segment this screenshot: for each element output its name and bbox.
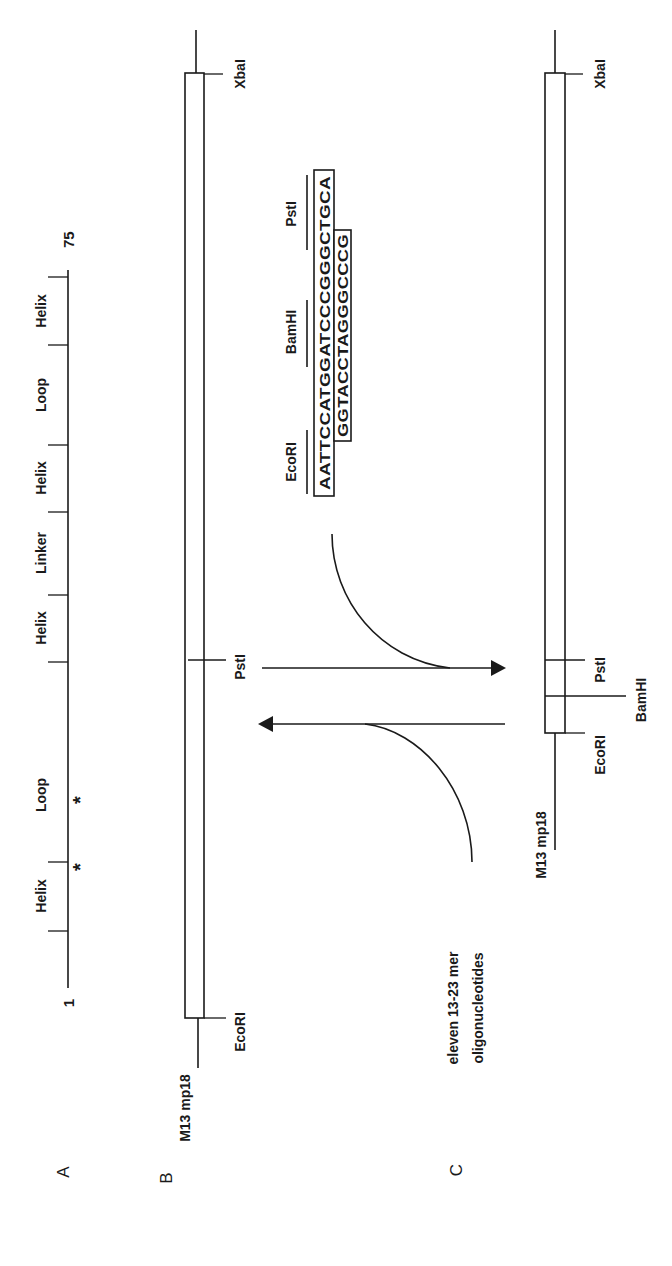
merge-curve-bottom	[365, 724, 472, 862]
oligo-annotation-line2: oligonucleotides	[470, 952, 486, 1063]
segment-label: Helix	[33, 294, 49, 328]
site-label-psti: PstI	[592, 657, 608, 683]
arrowhead-left-icon	[258, 716, 273, 732]
vector-label: M13 mp18	[177, 1074, 193, 1142]
insert-site-label-psti: PstI	[283, 201, 299, 227]
insert-site-label-bamhi: BamHI	[283, 310, 299, 354]
segment-label: Linker	[33, 531, 49, 574]
arrowhead-right-icon	[491, 660, 506, 676]
insert-sequence: PstI BamHI EcoRI AATTCCATGGATCCCGGGCTGCA…	[283, 170, 351, 496]
segment-label: Loop	[33, 778, 49, 812]
site-label-psti: PstI	[232, 654, 248, 680]
arrows: eleven 13-23 mer oligonucleotides	[258, 534, 506, 1064]
site-label-ecori: EcoRI	[232, 1012, 248, 1052]
oligo-annotation-line1: eleven 13-23 mer	[445, 951, 461, 1064]
segment-label: Loop	[33, 378, 49, 412]
panel-b: XbaI PstI EcoRI M13 mp18 B	[157, 30, 248, 1184]
panel-label-b: B	[157, 1172, 176, 1183]
bottom-strand-sequence: GGTACCTAGGGCCCG	[334, 234, 351, 437]
segment-label: Helix	[33, 879, 49, 913]
segment-label: Helix	[33, 611, 49, 645]
vector-insert-region	[545, 73, 565, 733]
site-label-xbai: XbaI	[232, 59, 248, 89]
mutation-marker: *	[69, 863, 91, 871]
segment-label: Helix	[33, 461, 49, 495]
site-label-ecori: EcoRI	[592, 735, 608, 775]
site-label-bamhi: BamHI	[633, 678, 649, 722]
vector-label: M13 mp18	[533, 811, 549, 879]
end-label: 75	[60, 231, 77, 248]
panel-label-c: C	[447, 1164, 466, 1176]
merge-curve-top	[332, 534, 450, 668]
start-label: 1	[60, 999, 77, 1007]
panel-a: 75 1 Helix Loop Helix Linker Helix Loop …	[33, 231, 91, 1177]
vector-insert-region	[185, 73, 204, 1018]
figure-canvas: 75 1 Helix Loop Helix Linker Helix Loop …	[0, 0, 672, 1266]
site-label-xbai: XbaI	[592, 59, 608, 89]
top-strand-sequence: AATTCCATGGATCCCGGGCTGCA	[316, 176, 333, 490]
panel-label-a: A	[54, 1166, 73, 1178]
mutation-marker: *	[69, 796, 91, 804]
insert-site-label-ecori: EcoRI	[283, 442, 299, 482]
